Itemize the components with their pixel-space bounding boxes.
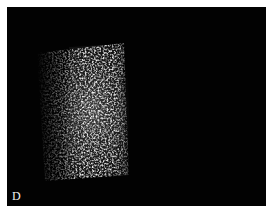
micrograph-panel: D	[7, 7, 266, 206]
panel-label: D	[12, 190, 21, 202]
specimen-image	[7, 7, 266, 206]
